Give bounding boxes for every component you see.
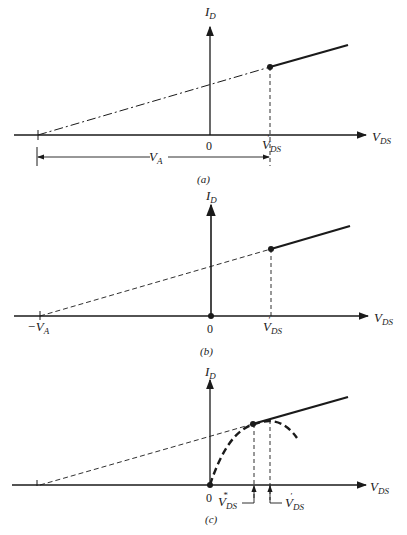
parabolic-curve — [210, 421, 297, 485]
vds-prime-label: VDS′ — [263, 315, 282, 336]
y-axis-label: ID — [205, 188, 217, 205]
caption-a: (a) — [197, 173, 210, 186]
x-axis-label: VDS — [370, 479, 389, 496]
origin-label: 0 — [206, 139, 212, 153]
vds-prime-label: VDS′ — [262, 133, 281, 154]
vds-star-label: VDS* — [218, 490, 237, 511]
neg-va-label: −VA — [27, 319, 50, 336]
extrapolated-line — [40, 249, 271, 316]
caption-b: (b) — [200, 345, 213, 358]
extrapolated-line — [38, 67, 270, 135]
origin-point — [207, 482, 213, 488]
x-axis-label: VDS — [372, 129, 391, 146]
saturation-line — [271, 226, 350, 249]
origin-point — [208, 313, 214, 319]
panel-b: ID VDS 0 −VA VDS′ (b) — [14, 188, 393, 358]
extrapolated-line — [40, 424, 253, 485]
va-label: VA — [149, 149, 163, 166]
y-axis-label: ID — [204, 4, 216, 21]
origin-label: 0 — [206, 491, 212, 505]
vds-star-point — [250, 421, 256, 427]
origin-label: 0 — [207, 322, 213, 336]
y-axis-label: ID — [204, 364, 216, 381]
figure: ID VDS 0 VDS′ VA (a) ID VDS 0 −VA VDS′ (… — [0, 0, 407, 535]
vds-prime-label: VDS′ — [285, 491, 304, 512]
x-axis-label: VDS — [374, 310, 393, 327]
saturation-line — [270, 45, 348, 67]
caption-c: (c) — [205, 513, 218, 526]
panel-a: ID VDS 0 VDS′ VA (a) — [14, 4, 391, 186]
panel-c: ID VDS 0 VDS* VDS′ (c) — [12, 364, 389, 526]
